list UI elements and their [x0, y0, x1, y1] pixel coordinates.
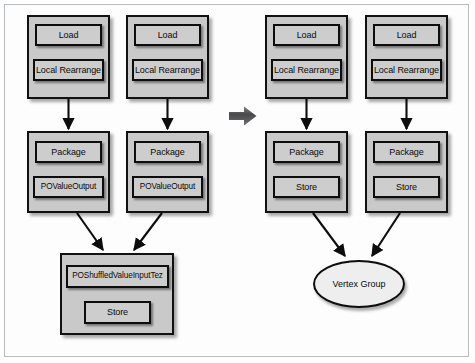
node-left-povalueoutput-2[interactable]: POValueOutput — [132, 176, 203, 198]
diagram-canvas: Load Local Rearrange Load Local Rearrang… — [0, 0, 475, 363]
node-vertex-group[interactable]: Vertex Group — [313, 260, 405, 308]
node-right-local-rearrange-1[interactable]: Local Rearrange — [271, 59, 342, 81]
transform-right-arrow-icon — [228, 104, 258, 128]
edge-left-reduce1-to-merge — [77, 213, 103, 250]
node-left-load-2[interactable]: Load — [134, 24, 201, 46]
edge-right-vertex3-to-group — [313, 213, 345, 256]
diagram-screenshot: Load Local Rearrange Load Local Rearrang… — [0, 0, 475, 363]
edge-left-reduce2-to-merge — [134, 213, 162, 250]
edge-right-vertex4-to-group — [372, 213, 400, 256]
node-left-povalueoutput-1[interactable]: POValueOutput — [33, 176, 104, 198]
node-left-package-1[interactable]: Package — [35, 141, 102, 163]
node-right-load-1[interactable]: Load — [273, 24, 340, 46]
node-right-package-2[interactable]: Package — [373, 141, 440, 163]
node-left-local-rearrange-2[interactable]: Local Rearrange — [132, 59, 203, 81]
node-left-local-rearrange-1[interactable]: Local Rearrange — [33, 59, 104, 81]
node-left-store[interactable]: Store — [84, 301, 151, 324]
node-left-package-2[interactable]: Package — [134, 141, 201, 163]
node-left-load-1[interactable]: Load — [35, 24, 102, 46]
node-right-store-2[interactable]: Store — [373, 176, 440, 198]
node-right-store-1[interactable]: Store — [273, 176, 340, 198]
node-right-local-rearrange-2[interactable]: Local Rearrange — [371, 59, 442, 81]
node-right-load-2[interactable]: Load — [373, 24, 440, 46]
node-left-poshuffledvalueinputtez[interactable]: POShuffledValueInputTez — [66, 265, 169, 288]
node-right-package-1[interactable]: Package — [273, 141, 340, 163]
